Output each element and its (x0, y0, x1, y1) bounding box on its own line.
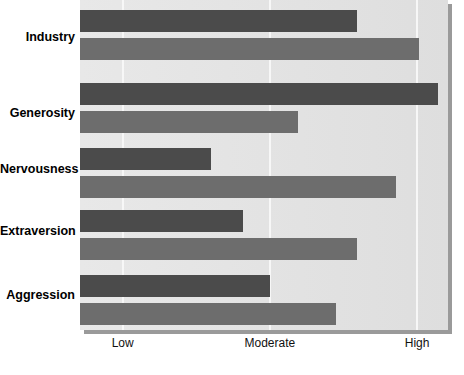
plot-area (80, 0, 448, 330)
category-label-aggression: Aggression (0, 288, 75, 302)
bar-nervousness-series-1 (80, 148, 211, 170)
x-tick-label-moderate: Moderate (245, 336, 296, 350)
bar-industry-series-1 (80, 10, 357, 32)
bar-chart: Industry Generosity Nervousness Extraver… (0, 0, 464, 375)
bar-industry-series-2 (80, 38, 419, 60)
bar-generosity-series-2 (80, 111, 298, 133)
category-label-extraversion: Extraversion (0, 224, 75, 238)
category-label-nervousness: Nervousness (0, 162, 75, 176)
bar-extraversion-series-1 (80, 210, 243, 232)
x-axis-title (0, 355, 464, 369)
x-tick-label-high: High (405, 336, 430, 350)
category-label-generosity: Generosity (0, 106, 75, 120)
category-label-industry: Industry (0, 30, 75, 44)
bar-generosity-series-1 (80, 83, 438, 105)
bar-extraversion-series-2 (80, 238, 357, 260)
category-label-text: Generosity (10, 106, 75, 120)
category-label-text: Industry (26, 30, 75, 44)
bar-aggression-series-2 (80, 303, 336, 325)
category-label-text: Aggression (6, 288, 75, 302)
category-label-text: Extraversion (0, 224, 76, 238)
category-label-text: Nervousness (0, 162, 79, 176)
bar-aggression-series-1 (80, 275, 270, 297)
bar-nervousness-series-2 (80, 176, 396, 198)
x-tick-label-low: Low (112, 336, 134, 350)
